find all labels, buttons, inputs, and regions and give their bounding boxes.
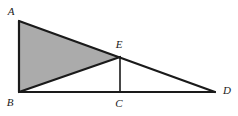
shaded-region-abe [19, 21, 120, 92]
vertex-label-d: D [223, 85, 231, 96]
geometry-figure: ABCDE [0, 0, 238, 116]
vertex-label-e: E [116, 39, 123, 50]
shaded-region-layer [19, 21, 120, 92]
vertex-label-a: A [8, 6, 15, 17]
vertex-label-c: C [115, 98, 122, 109]
vertex-label-b: B [7, 97, 14, 108]
